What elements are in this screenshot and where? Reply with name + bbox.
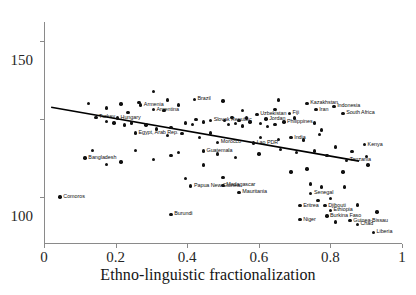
data-point bbox=[119, 160, 122, 163]
data-point-label: Egypt, Arab Rep. bbox=[138, 130, 178, 135]
data-point bbox=[313, 149, 316, 152]
data-point-label: Niger bbox=[303, 217, 316, 222]
plot-area: 50100150 00.20.40.60.81 ComorosTurkeyBan… bbox=[44, 22, 402, 244]
data-point bbox=[302, 138, 305, 141]
data-point bbox=[134, 131, 137, 134]
x-tick-label: 0.8 bbox=[321, 250, 340, 265]
data-point-label: Iran bbox=[319, 107, 328, 112]
x-tick-mark bbox=[116, 244, 117, 248]
data-point bbox=[288, 112, 291, 115]
data-point bbox=[137, 101, 140, 104]
data-point bbox=[332, 105, 335, 108]
data-point bbox=[314, 108, 317, 111]
data-point bbox=[162, 109, 165, 112]
x-tick-label: 0 bbox=[40, 250, 48, 265]
data-point bbox=[257, 152, 260, 155]
y-tick-label: 150 bbox=[11, 52, 34, 67]
data-point bbox=[184, 121, 187, 124]
x-tick-label: 0.2 bbox=[106, 250, 125, 265]
data-point-label: Senegal bbox=[314, 190, 333, 195]
data-point bbox=[193, 98, 196, 101]
data-point-label: Tanzania bbox=[350, 158, 371, 163]
data-point bbox=[289, 170, 292, 173]
data-point bbox=[116, 116, 119, 119]
data-point bbox=[356, 203, 359, 206]
data-point bbox=[58, 195, 61, 198]
data-point bbox=[313, 121, 316, 124]
data-point-label: Comoros bbox=[63, 194, 85, 199]
data-point bbox=[144, 123, 147, 126]
y-tick-label: 100 bbox=[11, 208, 34, 223]
data-point bbox=[202, 120, 205, 123]
x-tick-mark bbox=[44, 244, 45, 248]
data-point bbox=[184, 177, 187, 180]
data-point bbox=[237, 119, 240, 122]
data-point bbox=[105, 106, 108, 109]
x-tick-mark bbox=[402, 244, 403, 248]
data-point-label: Brazil bbox=[198, 97, 211, 102]
data-point bbox=[83, 156, 86, 159]
data-point bbox=[305, 102, 308, 105]
data-point-label: Chad bbox=[360, 222, 373, 227]
data-point-label: Kenya bbox=[368, 142, 383, 147]
data-point bbox=[320, 185, 323, 188]
data-point bbox=[365, 155, 368, 158]
data-point bbox=[305, 167, 308, 170]
data-point bbox=[273, 123, 276, 126]
data-point bbox=[282, 120, 285, 123]
data-point bbox=[112, 121, 115, 124]
data-point bbox=[320, 128, 323, 131]
x-tick-mark bbox=[187, 244, 188, 248]
data-point bbox=[177, 103, 180, 106]
data-point-label: Indonesia bbox=[337, 104, 360, 109]
data-point bbox=[341, 170, 344, 173]
data-point bbox=[169, 213, 172, 216]
data-point bbox=[209, 131, 212, 134]
data-point bbox=[221, 99, 224, 102]
data-point bbox=[341, 112, 344, 115]
data-point bbox=[169, 126, 172, 129]
data-point bbox=[372, 231, 375, 234]
data-point bbox=[134, 149, 137, 152]
data-point bbox=[245, 116, 248, 119]
data-point bbox=[325, 154, 328, 157]
data-point bbox=[221, 184, 224, 187]
data-point bbox=[264, 117, 267, 120]
data-point bbox=[94, 116, 97, 119]
data-point bbox=[202, 163, 205, 166]
data-point bbox=[91, 149, 94, 152]
data-point bbox=[119, 102, 122, 105]
data-point bbox=[248, 120, 251, 123]
data-point bbox=[325, 214, 328, 217]
x-tick-mark bbox=[330, 244, 331, 248]
data-point-label: Mauritania bbox=[242, 190, 267, 195]
data-point bbox=[221, 176, 224, 179]
x-tick-label: 1 bbox=[398, 250, 406, 265]
data-point-label: Burundi bbox=[174, 212, 192, 217]
scatter-plot-figure: 50100150 00.20.40.60.81 ComorosTurkeyBan… bbox=[0, 0, 416, 295]
data-point bbox=[348, 219, 351, 222]
data-point-label: South Africa bbox=[346, 111, 374, 116]
x-tick-label: 0.6 bbox=[249, 250, 268, 265]
data-point-label: Eritrea bbox=[303, 203, 319, 208]
data-point bbox=[279, 148, 282, 151]
data-point-label: Hungary bbox=[121, 115, 141, 120]
data-point-label: Fiji bbox=[292, 111, 299, 116]
data-point bbox=[130, 121, 133, 124]
data-point-label: Liberia bbox=[377, 230, 393, 235]
data-point bbox=[316, 199, 319, 202]
data-point bbox=[166, 98, 169, 101]
data-point bbox=[366, 163, 369, 166]
data-point-label: Madagascar bbox=[226, 183, 255, 188]
data-point bbox=[309, 182, 312, 185]
data-point-label: Guatemala bbox=[207, 148, 233, 153]
data-point bbox=[356, 223, 359, 226]
data-point bbox=[252, 141, 255, 144]
data-point-label: Philippines bbox=[287, 119, 313, 124]
data-point-label: Argentina bbox=[156, 107, 179, 112]
data-point bbox=[255, 113, 258, 116]
x-tick-label: 0.4 bbox=[178, 250, 197, 265]
data-point-label: Bangladesh bbox=[88, 155, 116, 160]
data-point bbox=[277, 98, 280, 101]
data-point bbox=[237, 191, 240, 194]
